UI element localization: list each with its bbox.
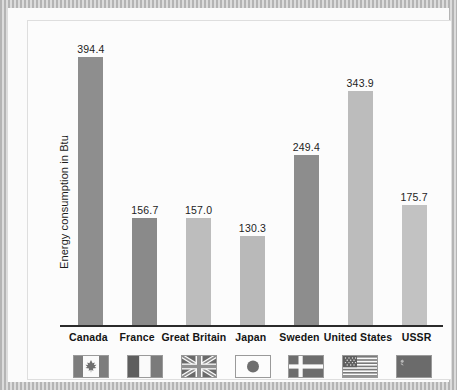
x-axis-category-labels: Canada France Great Britain Japan Sweden… (64, 331, 441, 351)
bar-group-ussr: 175.7 (387, 39, 441, 325)
flag-cell-france (118, 355, 172, 378)
category-label-france: France (113, 331, 162, 351)
bar-sweden (294, 155, 319, 325)
bar-japan (240, 236, 265, 325)
chart-frame: Energy consumption in Btu 394.4 156.7 15… (27, 20, 452, 380)
flag-ussr-icon (396, 355, 432, 378)
plot-area: 394.4 156.7 157.0 130.3 (64, 39, 441, 325)
flag-row (64, 355, 441, 387)
category-label-united-states: United States (324, 331, 392, 351)
category-label-great-britain: Great Britain (161, 331, 226, 351)
flag-sweden-icon (288, 355, 324, 378)
bar-ussr (402, 205, 427, 325)
bar-group-sweden: 249.4 (279, 39, 333, 325)
flag-cell-sweden (279, 355, 333, 378)
bar-series: 394.4 156.7 157.0 130.3 (64, 39, 441, 325)
flag-france-icon (127, 355, 163, 378)
x-axis-baseline (60, 325, 443, 327)
paper-surface: Energy consumption in Btu 394.4 156.7 15… (8, 8, 449, 382)
bar-group-great-britain: 157.0 (172, 39, 226, 325)
flag-united-kingdom-icon (181, 355, 217, 378)
bar-great-britain (186, 218, 211, 325)
category-label-canada: Canada (64, 331, 113, 351)
bar-value-label: 130.3 (239, 222, 266, 234)
bar-value-label: 157.0 (185, 204, 212, 216)
flag-canada-icon (73, 355, 109, 378)
flag-cell-canada (64, 355, 118, 378)
bar-value-label: 343.9 (347, 77, 374, 89)
category-label-japan: Japan (226, 331, 275, 351)
category-label-ussr: USSR (392, 331, 441, 351)
flag-japan-icon (235, 355, 271, 378)
bar-group-france: 156.7 (118, 39, 172, 325)
flag-cell-great-britain (172, 355, 226, 378)
bar-canada (78, 57, 103, 325)
bar-france (132, 218, 157, 325)
bar-group-canada: 394.4 (64, 39, 118, 325)
scanned-page: Energy consumption in Btu 394.4 156.7 15… (0, 0, 457, 390)
flag-cell-ussr (387, 355, 441, 378)
bar-value-label: 249.4 (293, 141, 320, 153)
bar-group-japan: 130.3 (226, 39, 280, 325)
flag-cell-united-states (333, 355, 387, 378)
category-label-sweden: Sweden (275, 331, 324, 351)
bar-value-label: 156.7 (131, 204, 158, 216)
bar-value-label: 175.7 (400, 191, 427, 203)
bar-united-states (348, 91, 373, 325)
flag-united-states-icon (342, 355, 378, 378)
bar-value-label: 394.4 (77, 43, 104, 55)
flag-cell-japan (226, 355, 280, 378)
bar-group-united-states: 343.9 (333, 39, 387, 325)
